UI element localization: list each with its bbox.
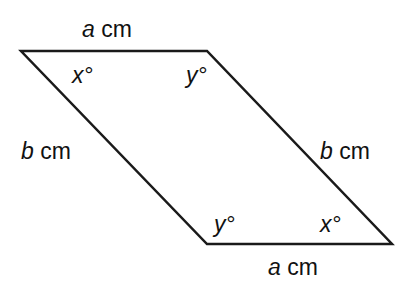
right-side-label: b cm <box>320 140 370 163</box>
left-side-var: b <box>21 138 34 164</box>
right-side-unit: cm <box>339 138 370 164</box>
bottom-side-var: a <box>268 254 281 280</box>
bottom-side-label: a cm <box>268 256 318 279</box>
left-side-unit: cm <box>40 138 71 164</box>
top-side-unit: cm <box>101 16 132 42</box>
bottom-side-unit: cm <box>287 254 318 280</box>
angle-top-right: y° <box>186 64 207 87</box>
angle-bottom-right: x° <box>320 213 341 236</box>
top-side-var: a <box>82 16 95 42</box>
left-side-label: b cm <box>21 140 71 163</box>
right-side-var: b <box>320 138 333 164</box>
top-side-label: a cm <box>82 18 132 41</box>
angle-top-left: x° <box>72 64 93 87</box>
angle-bottom-left: y° <box>214 213 235 236</box>
